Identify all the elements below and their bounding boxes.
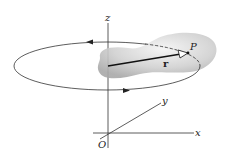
x-axis-label: x xyxy=(195,127,201,138)
point-p-label: P xyxy=(189,41,197,52)
arrow-left-icon xyxy=(86,40,93,45)
arrow-right-icon xyxy=(123,88,130,93)
z-axis-label: z xyxy=(104,12,111,23)
y-axis-label: y xyxy=(161,95,168,106)
rigid-body xyxy=(98,33,217,78)
rotation-diagram: z x y O P r xyxy=(0,0,229,155)
y-axis xyxy=(100,103,161,139)
origin-label: O xyxy=(98,139,106,150)
vector-r-label: r xyxy=(163,58,169,69)
point-p-marker xyxy=(187,52,190,55)
